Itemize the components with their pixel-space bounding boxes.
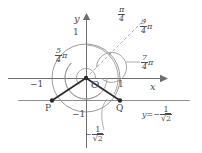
angle-arc-seven-quarters-pi — [97, 52, 127, 82]
line-equation-label: y=− 1 √2 — [142, 106, 172, 123]
angle-label-seven-quarters-pi: 7 4 π — [141, 54, 153, 71]
x-tick-positive-one: 1 — [118, 80, 124, 89]
fraction-numerator: π — [118, 6, 125, 14]
angle-label-suffix-pi: π — [147, 22, 152, 31]
y-tick-negative-one: −1 — [72, 110, 85, 119]
unit-circle-figure: y x 1 −1 1 −1 O P Q π 4 9 4 π 7 4 π 5 — [0, 0, 202, 153]
point-P-label: P — [45, 104, 51, 113]
sqrt-icon: √2 — [161, 115, 171, 123]
callout-minus-sign: − — [85, 130, 92, 139]
point-origin-dot — [84, 76, 88, 80]
fraction-one-over-root-two: 1 √2 — [160, 106, 172, 123]
terminal-ray-dashed — [86, 18, 146, 78]
sqrt-icon: √2 — [93, 135, 103, 143]
angle-label-nine-quarters-pi: 9 4 π — [140, 18, 152, 35]
x-axis-label: x — [150, 82, 156, 92]
equation-minus-sign: − — [153, 110, 160, 119]
origin-label: O — [91, 80, 99, 90]
sqrt-radicand: 2 — [97, 133, 103, 143]
y-tick-positive-one: 1 — [73, 28, 79, 37]
angle-label-pi-over-4: π 4 — [118, 6, 125, 23]
fraction-denominator: √2 — [160, 114, 172, 123]
fraction-pi-over-4: π 4 — [118, 6, 125, 23]
fraction-denominator: 4 — [118, 14, 125, 23]
y-axis-label: y — [74, 14, 80, 24]
fraction-denominator: √2 — [92, 134, 104, 143]
sqrt-radicand: 2 — [165, 113, 171, 123]
segment-OP — [52, 78, 86, 101]
angle-label-suffix-pi: π — [62, 51, 67, 60]
point-Q-label: Q — [116, 104, 123, 113]
angle-label-five-quarters-pi: 5 4 π — [55, 47, 67, 64]
y-axis-arrow-icon — [83, 13, 90, 20]
y-value-callout: − 1 √2 — [85, 126, 104, 143]
x-tick-negative-one: −1 — [30, 80, 43, 89]
fraction-one-over-root-two: 1 √2 — [92, 126, 104, 143]
x-axis-arrow-icon — [160, 75, 168, 82]
angle-label-suffix-pi: π — [148, 58, 153, 67]
